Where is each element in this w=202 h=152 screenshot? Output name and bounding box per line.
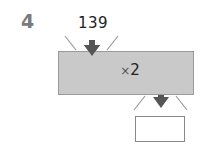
down-arrow-icon xyxy=(84,40,100,56)
answer-box[interactable] xyxy=(135,116,185,142)
